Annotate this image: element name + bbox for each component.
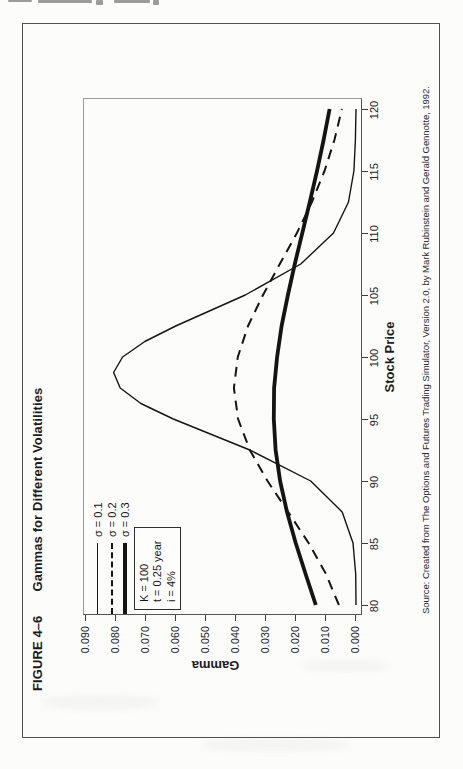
y-tick-label: 0.070 (139, 626, 151, 676)
rotated-figure: FIGURE 4–6Gammas for Different Volatilit… (0, 0, 463, 769)
legend-label: σ = 0.2 (106, 502, 118, 537)
x-tick-label: 100 (368, 341, 380, 375)
y-tick-label: 0.080 (109, 626, 121, 676)
x-tick-label: 120 (368, 93, 380, 127)
curve-σ=0.3 (274, 109, 330, 605)
y-tick-label: 0.020 (289, 626, 301, 676)
x-tick-label: 85 (368, 527, 380, 561)
y-tick-label: 0.030 (259, 626, 271, 676)
y-tick (115, 615, 116, 621)
legend-row: σ = 0.3 (119, 502, 133, 614)
y-tick (145, 615, 146, 621)
y-tick-label: 0.000 (349, 626, 361, 676)
y-tick (85, 615, 86, 621)
parameter-line: i = 4% (165, 528, 178, 602)
y-tick-label: 0.060 (169, 626, 181, 676)
y-tick-label: 0.090 (79, 626, 91, 676)
legend-label: σ = 0.3 (119, 502, 131, 537)
y-axis-title: Gamma (186, 658, 246, 673)
legend: σ = 0.1σ = 0.2σ = 0.3 (91, 502, 132, 614)
curve-σ=0.2 (234, 109, 342, 605)
legend-line-sample-dashed (111, 543, 113, 614)
x-tick-label: 90 (368, 465, 380, 499)
legend-line-sample-thin-solid (97, 543, 98, 614)
x-tick-label: 105 (368, 279, 380, 313)
legend-line-sample-thick-solid (123, 543, 127, 614)
legend-row: σ = 0.2 (105, 502, 119, 614)
legend-label: σ = 0.1 (92, 502, 104, 537)
legend-row: σ = 0.1 (91, 502, 105, 614)
parameter-line: K = 100 (138, 528, 151, 602)
x-tick-label: 80 (368, 589, 380, 623)
parameter-box: K = 100t = 0.25 yeari = 4% (134, 527, 181, 610)
y-tick (355, 615, 356, 621)
x-axis-title: Stock Price (382, 287, 397, 427)
y-tick-label: 0.010 (319, 626, 331, 676)
y-tick (325, 615, 326, 621)
y-tick (175, 615, 176, 621)
scanned-book-page: FIGURE 4–6Gammas for Different Volatilit… (0, 0, 463, 769)
figure-heading: FIGURE 4–6Gammas for Different Volatilit… (30, 388, 45, 691)
x-tick-label: 115 (368, 155, 380, 189)
y-tick (265, 615, 266, 621)
x-tick-label: 95 (368, 403, 380, 437)
y-tick (295, 615, 296, 621)
source-note: Source: Created from The Options and Fut… (420, 86, 431, 614)
parameter-line: t = 0.25 year (151, 528, 164, 602)
y-tick (235, 615, 236, 621)
figure-number: FIGURE 4–6 (30, 616, 45, 691)
y-tick (205, 615, 206, 621)
figure-title: Gammas for Different Volatilities (30, 388, 45, 592)
x-tick-label: 110 (368, 217, 380, 251)
